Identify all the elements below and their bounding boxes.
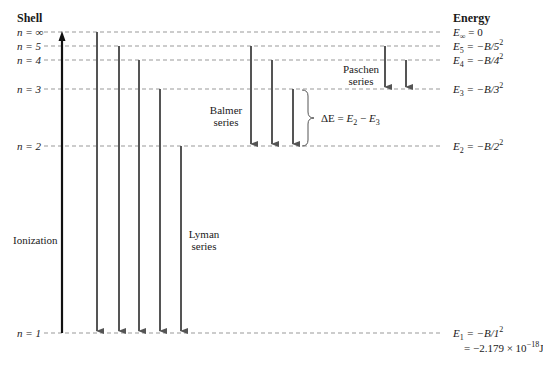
lyman-arrows xyxy=(97,32,181,331)
ionization-label: Ionization xyxy=(13,234,58,246)
energy-label-4: E4 = −B/42 xyxy=(453,54,503,66)
shell-label-3: n = 3 xyxy=(17,83,41,95)
shell-header: Shell xyxy=(17,11,42,26)
lyman-label: Lymanseries xyxy=(188,228,220,252)
balmer-arrows xyxy=(251,46,293,144)
shell-label-2: n = 2 xyxy=(17,140,41,152)
energy-label-3: E3 = −B/32 xyxy=(453,83,503,95)
delta-e-equation: ΔE = E2 − E3 xyxy=(321,112,380,124)
shell-label-4: n = 4 xyxy=(17,54,41,66)
paschen-label: Paschenseries xyxy=(339,63,383,87)
paschen-arrows xyxy=(385,46,406,87)
energy-header: Energy xyxy=(453,11,490,26)
delta-e-brace xyxy=(302,90,314,146)
shell-label-1: n = 1 xyxy=(17,327,41,339)
energy-label-1: E1 = −B/12 xyxy=(453,327,503,339)
shell-label-inf: n = ∞ xyxy=(17,26,43,38)
energy-label-5: E5 = −B/52 xyxy=(453,40,503,52)
balmer-label: Balmerseries xyxy=(205,104,247,128)
energy-label-inf: E∞ = 0 xyxy=(453,26,483,38)
ionization-arrow xyxy=(59,31,66,333)
ground-energy-value: = −2.179 × 10−18J xyxy=(464,342,543,354)
energy-label-2: E2 = −B/22 xyxy=(453,140,503,152)
shell-label-5: n = 5 xyxy=(17,40,41,52)
